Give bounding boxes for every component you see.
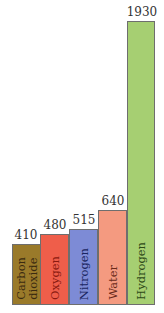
value-label-water: 640 [98, 194, 128, 208]
bar-label-hydrogen: Hydrogen [135, 242, 147, 300]
value-label-carbon-dioxide: 410 [11, 228, 41, 242]
value-label-oxygen: 480 [40, 218, 70, 232]
value-label-nitrogen: 515 [69, 213, 99, 227]
bar-chart: 410 Carbon dioxide 480 Oxygen 515 Nitrog… [0, 0, 164, 313]
bar-label-water: Water [107, 265, 119, 300]
bar-carbon-dioxide: Carbon dioxide [12, 244, 41, 305]
bar-label-nitrogen: Nitrogen [78, 248, 90, 300]
bar-hydrogen: Hydrogen [127, 21, 155, 305]
bar-oxygen: Oxygen [40, 234, 69, 305]
value-label-hydrogen: 1930 [126, 5, 158, 19]
bar-label-carbon-dioxide: Carbon dioxide [15, 257, 39, 300]
bar-label-oxygen: Oxygen [49, 256, 61, 300]
bar-nitrogen: Nitrogen [69, 229, 98, 305]
bar-water: Water [98, 210, 127, 305]
